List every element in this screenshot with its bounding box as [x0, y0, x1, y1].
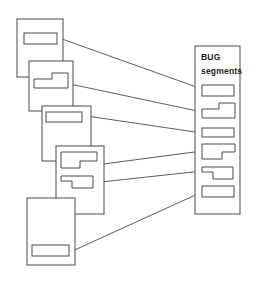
- bug-segment-6[interactable]: [202, 186, 234, 197]
- document-3-segment[interactable]: [46, 112, 82, 122]
- bug-segment-3[interactable]: [202, 128, 234, 137]
- document-5-segment[interactable]: [32, 245, 69, 256]
- link-doc3-to-segment3: [80, 115, 202, 133]
- panel-title-line1: BUG: [201, 52, 221, 62]
- diagram-svg: BUG segments: [0, 0, 258, 281]
- document-1-segment[interactable]: [24, 33, 57, 44]
- bug-segments-panel[interactable]: BUG segments: [195, 46, 242, 214]
- link-doc4a-to-segment4: [96, 151, 202, 165]
- bug-segment-1[interactable]: [202, 85, 234, 96]
- document-2[interactable]: [29, 61, 73, 111]
- panel-title-line2: segments: [201, 66, 242, 76]
- link-doc4b-to-segment5: [92, 171, 202, 183]
- document-5[interactable]: [27, 198, 75, 265]
- diagram-canvas: BUG segments: [0, 0, 258, 281]
- link-doc1-to-segment1: [62, 39, 202, 89]
